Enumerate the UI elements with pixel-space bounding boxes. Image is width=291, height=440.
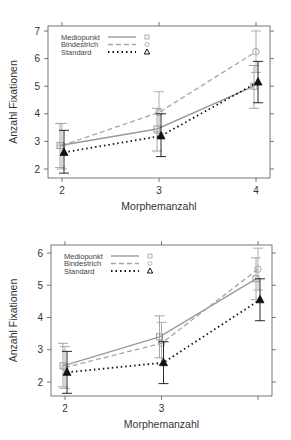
chart-bottom: 2345623MorphemanzahlAnzahl FixationenMed… <box>0 220 291 440</box>
y-tick-label: 7 <box>34 26 40 37</box>
legend-marker-square <box>145 35 149 39</box>
legend-marker-triangle <box>144 49 149 54</box>
y-axis-title: Anzahl Fixationen <box>7 279 19 363</box>
y-tick-label: 6 <box>34 53 40 64</box>
legend-marker-square <box>148 254 152 258</box>
x-tick-label: 3 <box>159 403 165 414</box>
x-axis-title: Morphemanzahl <box>124 418 199 430</box>
y-tick-label: 5 <box>37 280 43 291</box>
y-tick-label: 2 <box>34 164 40 175</box>
marker-triangle <box>160 358 168 366</box>
y-axis-title: Anzahl Fixationen <box>7 60 19 144</box>
y-tick-label: 3 <box>37 344 43 355</box>
x-tick-label: 4 <box>253 185 259 196</box>
y-tick-label: 4 <box>34 108 40 119</box>
y-tick-label: 4 <box>37 312 43 323</box>
y-tick-label: 6 <box>37 248 43 259</box>
legend: MediopunktBindestrichStandard <box>64 252 153 276</box>
x-tick-label: 2 <box>62 403 68 414</box>
x-tick-label: 3 <box>156 185 162 196</box>
marker-triangle <box>256 295 264 303</box>
y-tick-label: 3 <box>34 136 40 147</box>
x-tick-label: 2 <box>59 185 65 196</box>
chart-top: 234567234MorphemanzahlAnzahl FixationenM… <box>0 0 291 220</box>
marker-triangle <box>157 131 165 139</box>
x-axis-title: Morphemanzahl <box>121 200 196 212</box>
y-tick-label: 5 <box>34 81 40 92</box>
y-tick-label: 2 <box>37 377 43 388</box>
legend-marker-circle <box>145 43 149 47</box>
legend-marker-circle <box>148 262 152 266</box>
legend-marker-triangle <box>147 268 152 273</box>
series-standard <box>59 61 263 173</box>
series-standard <box>62 279 265 393</box>
series-mediopunkt <box>55 66 259 168</box>
legend-label: Standard <box>64 267 94 276</box>
marker-triangle <box>254 78 262 86</box>
legend-label: Standard <box>61 48 91 57</box>
legend: MediopunktBindestrichStandard <box>61 33 150 57</box>
